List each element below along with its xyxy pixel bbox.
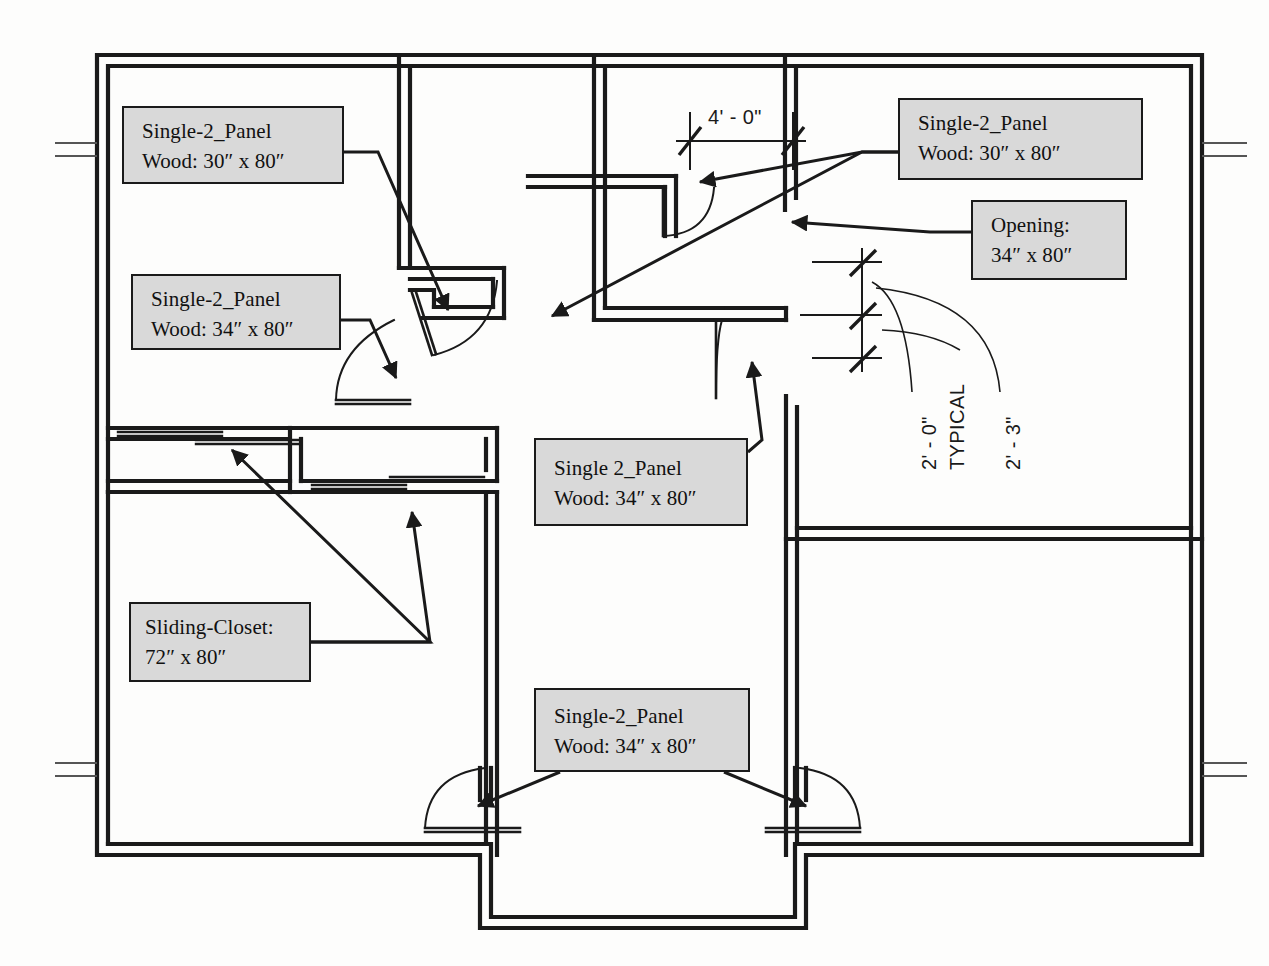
door-leaf-hall (412, 293, 432, 355)
dimension-text-2ft-3in: 2' - 3" (1002, 416, 1025, 470)
callout-line-1: Opening: (991, 211, 1125, 241)
dimension-text-typical: TYPICAL (946, 384, 969, 470)
callout-line-1: Single-2_Panel (918, 109, 1141, 139)
callout-line-2: 72″ x 80″ (145, 643, 309, 673)
callout-opening-right: Opening: 34″ x 80″ (971, 200, 1127, 280)
callout-line-2: Wood: 34″ x 80″ (151, 315, 339, 345)
dimension-text-2ft-0in: 2' - 0" (918, 416, 941, 470)
callout-door-entry-bottom: Single-2_Panel Wood: 34″ x 80″ (534, 688, 750, 772)
entry-door-arc-left (425, 768, 485, 828)
callout-line-2: 34″ x 80″ (991, 241, 1125, 271)
callout-line-1: Single 2_Panel (554, 454, 746, 484)
leader-opening-right (792, 222, 971, 232)
dim-leader-mid (882, 330, 960, 350)
dimension-text-top-horizontal: 4' - 0" (708, 106, 762, 129)
callout-line-1: Sliding-Closet: (145, 613, 309, 643)
leader-door-bedroom-lower-left (341, 320, 396, 378)
callout-sliding-closet: Sliding-Closet: 72″ x 80″ (129, 602, 311, 682)
callout-door-bedroom-upper-left: Single-2_Panel Wood: 30″ x 80″ (122, 106, 344, 184)
callout-line-2: Wood: 30″ x 80″ (142, 147, 342, 177)
entry-door-arc-right (800, 768, 860, 828)
callout-line-1: Single-2_Panel (142, 117, 342, 147)
dim-leader-2ft0 (872, 282, 912, 392)
callout-line-2: Wood: 34″ x 80″ (554, 484, 746, 514)
callout-door-bedroom-lower-left: Single-2_Panel Wood: 34″ x 80″ (131, 274, 341, 350)
leader-sliding-closet-2 (311, 512, 430, 642)
door-arc-bath (663, 188, 714, 236)
leader-door-bath-upper-right-1 (700, 152, 898, 182)
leader-door-center (748, 362, 762, 452)
callout-door-center: Single 2_Panel Wood: 34″ x 80″ (534, 438, 748, 526)
callout-line-2: Wood: 30″ x 80″ (918, 139, 1141, 169)
callout-line-1: Single-2_Panel (554, 702, 748, 732)
leader-door-bedroom-upper-left (344, 152, 448, 310)
callout-line-1: Single-2_Panel (151, 285, 339, 315)
door-arc-bedroom-left (336, 320, 394, 400)
floor-plan-sheet: Single-2_Panel Wood: 30″ x 80″ Single-2_… (0, 0, 1269, 966)
callout-door-bath-upper-right: Single-2_Panel Wood: 30″ x 80″ (898, 98, 1143, 180)
callout-line-2: Wood: 34″ x 80″ (554, 732, 748, 762)
